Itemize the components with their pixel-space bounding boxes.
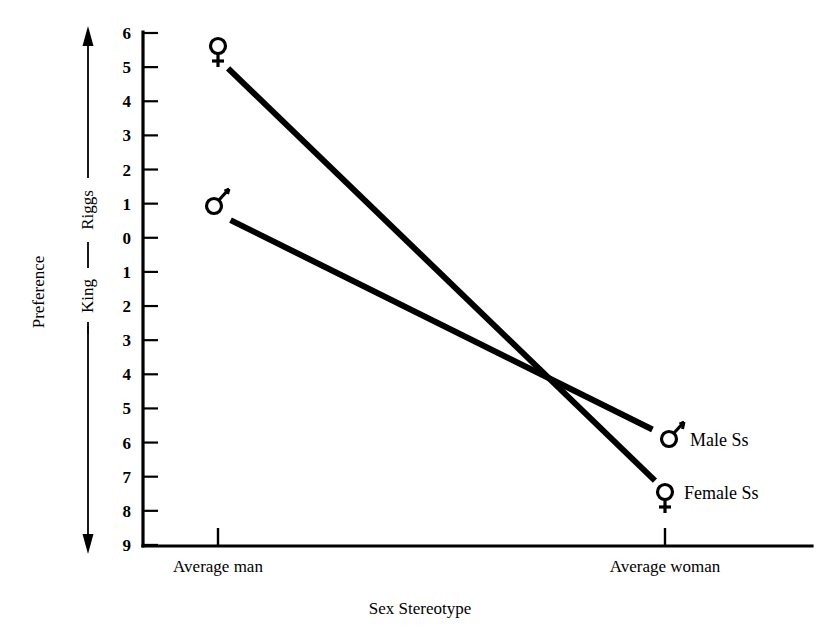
y-tick-group: 6543210123456789 [123, 24, 159, 555]
y-tick-label: 4 [123, 92, 132, 111]
pole-label-king-group: King [78, 268, 100, 334]
y-tick-label: 1 [123, 195, 132, 214]
male-symbol-right [662, 422, 685, 447]
y-tick-label: 9 [123, 536, 132, 555]
y-tick-label: 6 [123, 434, 132, 453]
pole-label-riggs-group: Riggs [78, 178, 100, 242]
series-group [228, 68, 655, 480]
male-symbol-left [207, 189, 230, 214]
y-tick-label: 7 [123, 468, 132, 487]
y-tick-label: 2 [123, 297, 132, 316]
y-tick-label: 0 [123, 229, 132, 248]
series-label-male: Male Ss [690, 430, 749, 450]
y-tick-label: 8 [123, 502, 132, 521]
y-tick-label: 3 [123, 126, 132, 145]
chart-figure: Preference Riggs King 6543210123456789 [0, 0, 836, 630]
category-label-average-woman: Average woman [610, 557, 721, 576]
y-tick-label: 5 [123, 58, 132, 77]
category-tick-group [218, 528, 665, 546]
y-axis-title: Preference [29, 256, 48, 329]
female-symbol-left [211, 39, 226, 68]
y-tick-label: 4 [123, 365, 132, 384]
series-line-female-ss [228, 68, 655, 480]
series-label-female: Female Ss [684, 483, 759, 503]
series-line-male-ss [231, 220, 653, 429]
pole-label-riggs: Riggs [78, 190, 97, 230]
female-symbol-right [658, 485, 673, 514]
x-axis-title: Sex Stereotype [369, 599, 471, 618]
y-tick-label: 3 [123, 331, 132, 350]
y-tick-label: 5 [123, 399, 132, 418]
y-tick-label: 2 [123, 161, 132, 180]
category-label-average-man: Average man [173, 557, 263, 576]
line-chart: Preference Riggs King 6543210123456789 [0, 0, 836, 630]
y-tick-label: 1 [123, 263, 132, 282]
y-tick-label: 6 [123, 24, 132, 43]
pole-label-king: King [78, 279, 97, 314]
